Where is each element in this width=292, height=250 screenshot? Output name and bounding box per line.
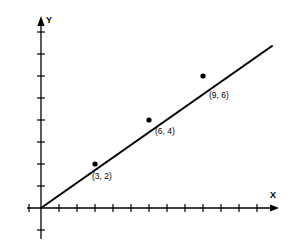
y-axis-arrowhead-icon	[37, 16, 44, 26]
x-axis-label: X	[270, 191, 276, 200]
data-point-marker-9-6	[200, 73, 205, 78]
cartesian-plot	[0, 0, 292, 250]
point-annotation-6-4: (6, 4)	[155, 127, 175, 136]
point-annotation-9-6: (9, 6)	[209, 91, 229, 100]
coordinate-graph-figure: Y X (3, 2) (6, 4) (9, 6)	[0, 0, 292, 250]
data-point-markers	[92, 73, 205, 166]
y-axis-label: Y	[46, 16, 52, 25]
data-point-marker-3-2	[92, 161, 97, 166]
data-point-marker-6-4	[146, 117, 151, 122]
x-axis-arrowhead-icon	[270, 204, 279, 211]
point-annotation-3-2: (3, 2)	[92, 172, 112, 181]
